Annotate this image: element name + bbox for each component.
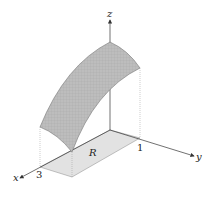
z-axis-label: z [106,8,113,19]
y-axis-label: y [195,151,202,162]
x-axis-label: x [13,172,19,183]
surface-diagram: z y x 3 1 R [0,0,211,197]
x-tick-label: 3 [36,169,42,180]
y-tick-label: 1 [137,142,143,153]
region-label: R [88,147,97,158]
